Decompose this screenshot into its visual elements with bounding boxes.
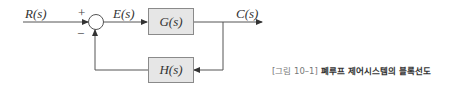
output-signal-label: C(s) bbox=[236, 7, 258, 20]
input-signal-label: R(s) bbox=[25, 7, 47, 20]
figure-caption: [그림 10–1]폐루프 제어시스템의 블록선도 bbox=[272, 67, 431, 76]
plus-sign: + bbox=[78, 6, 85, 19]
figure-title: 폐루프 제어시스템의 블록선도 bbox=[321, 66, 431, 76]
summing-junction bbox=[89, 15, 104, 30]
figure-number: [그림 10–1] bbox=[272, 66, 318, 76]
feedback-return-line bbox=[95, 30, 148, 70]
forward-block-g: G(s) bbox=[148, 8, 194, 35]
diagram-wires bbox=[0, 0, 451, 92]
feedback-branch-line bbox=[194, 22, 223, 70]
block-diagram: R(s) + − E(s) C(s) G(s) H(s) [그림 10–1]폐루… bbox=[0, 0, 451, 92]
feedback-block-label: H(s) bbox=[159, 62, 182, 78]
feedback-block-h: H(s) bbox=[148, 57, 194, 83]
minus-sign: − bbox=[77, 27, 84, 40]
forward-block-label: G(s) bbox=[159, 14, 182, 30]
error-signal-label: E(s) bbox=[113, 7, 135, 20]
